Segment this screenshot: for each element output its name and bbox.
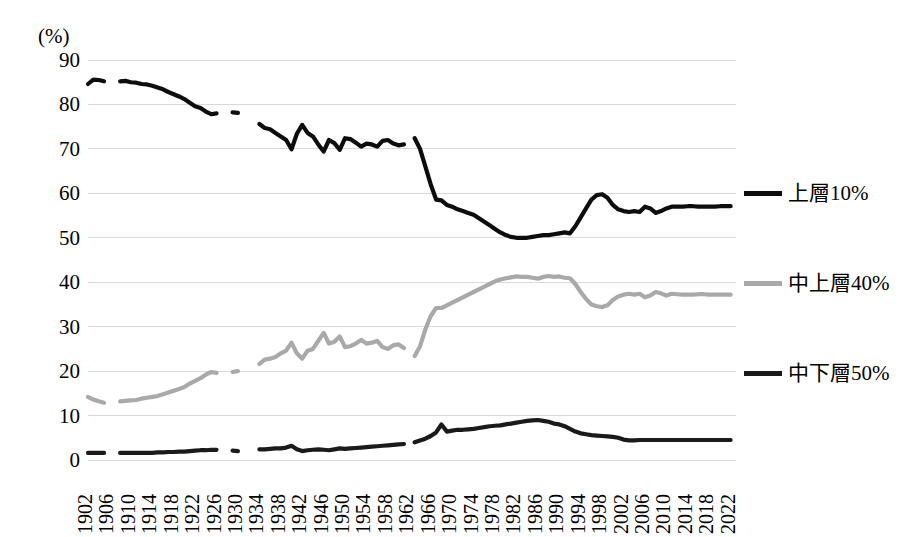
legend-item-top[interactable]: 上層10% xyxy=(744,183,869,204)
x-axis-tick-label: 1926 xyxy=(204,494,224,534)
x-axis-tick-label: 1998 xyxy=(589,494,609,534)
x-axis-tick-label: 1902 xyxy=(75,494,95,534)
series-line-top xyxy=(259,124,404,152)
y-axis-tick-labels: 9080706050403020100 xyxy=(36,0,80,537)
x-axis-tick-label: 2006 xyxy=(632,494,652,534)
series-line-top xyxy=(88,80,104,84)
x-axis-tick-label: 1918 xyxy=(161,494,181,534)
gridlines xyxy=(88,60,736,460)
x-axis-tick-label: 1978 xyxy=(482,494,502,534)
x-axis-tick-label: 1986 xyxy=(525,494,545,534)
series-line-bot xyxy=(415,420,731,442)
legend-label: 中上層40% xyxy=(788,273,890,294)
y-axis-tick-label: 40 xyxy=(36,272,80,293)
x-axis-tick-label: 1946 xyxy=(311,494,331,534)
legend-item-mid[interactable]: 中上層40% xyxy=(744,273,890,294)
x-axis-tick-labels: 1902190619101914191819221926193019341938… xyxy=(88,462,736,534)
x-axis-tick-label: 1982 xyxy=(503,494,523,534)
x-axis-tick-label: 1922 xyxy=(182,494,202,534)
plot-area xyxy=(88,60,736,460)
chart-legend: 上層10%中上層40%中下層50% xyxy=(744,0,917,537)
x-axis-tick-label: 1906 xyxy=(96,494,116,534)
x-axis-tick-label: 1966 xyxy=(418,494,438,534)
y-axis-tick-label: 10 xyxy=(36,405,80,426)
y-axis-tick-label: 0 xyxy=(36,450,80,471)
x-axis-tick-label: 1974 xyxy=(461,494,481,534)
series-line-top xyxy=(415,138,731,238)
x-axis-tick-label: 1942 xyxy=(289,494,309,534)
line-chart: (%) 9080706050403020100 1902190619101914… xyxy=(0,0,917,537)
y-axis-tick-label: 90 xyxy=(36,50,80,71)
series-line-bot xyxy=(120,450,216,453)
legend-swatch-icon xyxy=(744,191,782,196)
series-line-mid xyxy=(88,397,104,403)
x-axis-tick-label: 2010 xyxy=(653,494,673,534)
x-axis-tick-label: 2014 xyxy=(675,494,695,534)
series-line-mid xyxy=(415,276,731,356)
series-line-top xyxy=(120,81,216,114)
x-axis-tick-label: 1990 xyxy=(546,494,566,534)
y-axis-tick-label: 80 xyxy=(36,94,80,115)
plot-svg xyxy=(88,60,736,460)
series-line-mid xyxy=(120,372,216,401)
y-axis-tick-label: 60 xyxy=(36,183,80,204)
y-axis-tick-label: 20 xyxy=(36,361,80,382)
x-axis-tick-label: 1938 xyxy=(268,494,288,534)
legend-label: 上層10% xyxy=(788,183,869,204)
x-axis-tick-label: 1950 xyxy=(332,494,352,534)
legend-swatch-icon xyxy=(744,281,782,286)
y-axis-tick-label: 50 xyxy=(36,227,80,248)
series-lines xyxy=(88,80,731,453)
x-axis-tick-label: 1914 xyxy=(139,494,159,534)
y-axis-tick-label: 30 xyxy=(36,316,80,337)
x-axis-tick-label: 1970 xyxy=(439,494,459,534)
x-axis-tick-label: 2002 xyxy=(611,494,631,534)
x-axis-tick-label: 1994 xyxy=(568,494,588,534)
legend-swatch-icon xyxy=(744,371,782,376)
x-axis-tick-label: 1954 xyxy=(353,494,373,534)
x-axis-tick-label: 1958 xyxy=(375,494,395,534)
x-axis-tick-label: 1930 xyxy=(225,494,245,534)
y-axis-tick-label: 70 xyxy=(36,138,80,159)
legend-item-bot[interactable]: 中下層50% xyxy=(744,363,890,384)
x-axis-tick-label: 1910 xyxy=(118,494,138,534)
series-line-bot xyxy=(259,444,404,451)
x-axis-tick-label: 2022 xyxy=(718,494,738,534)
x-axis-tick-label: 1934 xyxy=(246,494,266,534)
legend-label: 中下層50% xyxy=(788,363,890,384)
x-axis-tick-label: 2018 xyxy=(696,494,716,534)
series-line-mid xyxy=(259,333,404,364)
x-axis-tick-label: 1962 xyxy=(396,494,416,534)
series-line-mid xyxy=(233,371,238,372)
